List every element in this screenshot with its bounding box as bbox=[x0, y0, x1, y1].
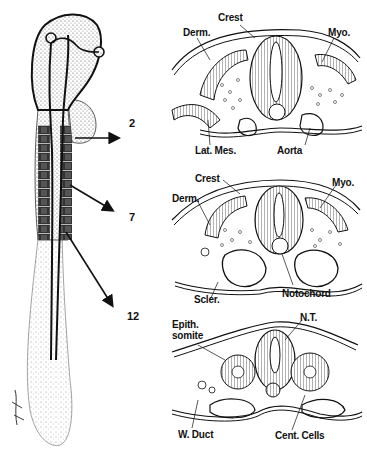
label-cent-cells: Cent. Cells bbox=[275, 431, 324, 441]
section-middle bbox=[172, 180, 362, 300]
label-crest-middle: Crest bbox=[195, 174, 220, 184]
embryo-drawing bbox=[0, 0, 367, 459]
label-epith: Epith. bbox=[172, 320, 199, 330]
label-myo-middle: Myo. bbox=[332, 178, 354, 188]
label-derm-top: Derm. bbox=[183, 28, 210, 38]
label-scler: Scler. bbox=[194, 295, 220, 305]
level-marker-12: 12 bbox=[127, 311, 139, 322]
label-lat-mes: Lat. Mes. bbox=[195, 146, 236, 156]
label-derm-middle: Derm. bbox=[172, 194, 199, 204]
label-nt: N.T. bbox=[300, 313, 317, 323]
level-marker-2: 2 bbox=[129, 118, 135, 129]
section-top bbox=[172, 25, 362, 145]
arrow-level-7 bbox=[70, 185, 112, 210]
label-myo-top: Myo. bbox=[328, 28, 350, 38]
label-somite: somite bbox=[172, 331, 203, 341]
label-notochord: Notochord bbox=[282, 289, 331, 299]
label-crest-top: Crest bbox=[218, 13, 243, 23]
figure: 2 7 12 Crest Derm. Myo. Lat. Mes. Aorta … bbox=[0, 0, 367, 459]
label-w-duct: W. Duct bbox=[178, 430, 213, 440]
arrow-level-12 bbox=[66, 232, 112, 305]
level-marker-7: 7 bbox=[129, 212, 135, 223]
label-aorta: Aorta bbox=[277, 146, 302, 156]
